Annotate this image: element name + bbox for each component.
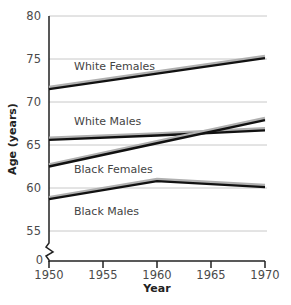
y-tick-label: 65 [26, 138, 41, 152]
y-tick-label: 0 [36, 253, 43, 267]
y-tick-label: 60 [26, 181, 41, 195]
life-expectancy-chart: 80 75 70 65 60 55 0 1950 1955 1960 1965 … [0, 0, 291, 305]
x-axis [49, 261, 265, 268]
y-axis-title: Age (years) [6, 103, 19, 175]
y-tick-labels: 80 75 70 65 60 55 0 [26, 9, 43, 267]
x-axis-title: Year [142, 282, 171, 295]
x-tick-label: 1955 [88, 268, 117, 282]
series-label-black-males: Black Males [74, 205, 139, 218]
series-label-black-females: Black Females [74, 163, 153, 176]
y-tick-label: 55 [26, 224, 41, 238]
y-tick-label: 75 [26, 52, 41, 66]
x-tick-labels: 1950 1955 1960 1965 1970 [34, 268, 279, 282]
x-tick-label: 1965 [196, 268, 225, 282]
series-line-white-males [49, 130, 265, 139]
x-tick-label: 1950 [34, 268, 63, 282]
y-tick-label: 80 [26, 9, 41, 23]
x-tick-label: 1960 [142, 268, 171, 282]
series-label-white-males: White Males [74, 115, 142, 128]
series-label-white-females: White Females [74, 60, 155, 73]
y-tick-label: 70 [26, 95, 41, 109]
x-tick-label: 1970 [250, 268, 279, 282]
